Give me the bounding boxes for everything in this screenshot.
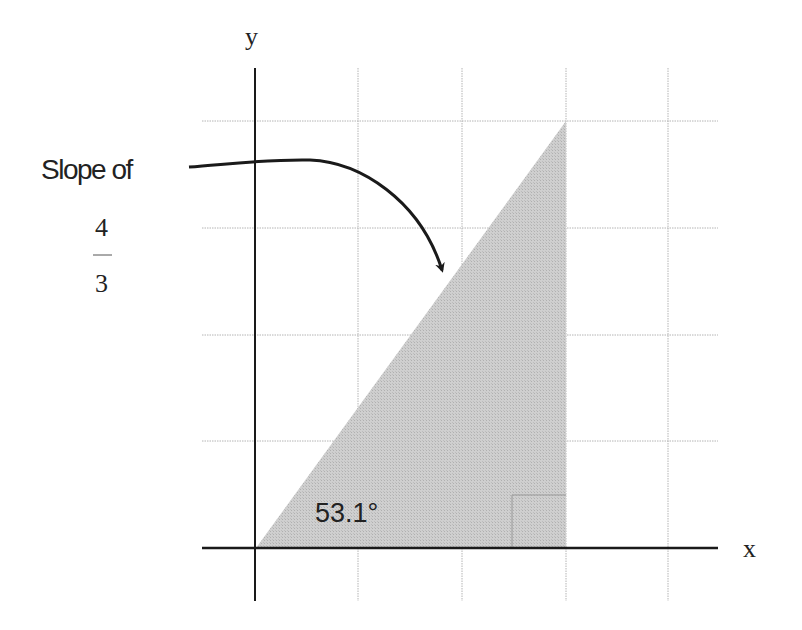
slope-triangle-diagram: y x Slope of 4 3 53.1° xyxy=(0,0,802,630)
angle-label: 53.1° xyxy=(315,498,378,528)
curved-arrow-icon xyxy=(189,160,442,270)
y-axis-label: y xyxy=(245,22,258,51)
slope-fraction-numerator: 4 xyxy=(95,213,108,242)
slope-fraction-denominator: 3 xyxy=(95,269,108,298)
slope-annotation-label: Slope of xyxy=(41,154,133,185)
x-axis-label: x xyxy=(743,534,756,563)
